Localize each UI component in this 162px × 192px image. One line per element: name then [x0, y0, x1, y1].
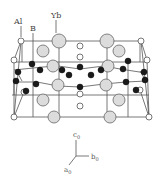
label-b: B	[30, 24, 36, 33]
al-atom	[18, 38, 24, 44]
yb-atom	[52, 79, 64, 91]
crystal-structure-diagram: Al B Yb c0b0a0	[0, 0, 162, 192]
b-atom	[120, 66, 126, 72]
yb-atom	[113, 94, 125, 106]
b-atom	[98, 67, 104, 73]
yb-atom	[47, 60, 59, 72]
b-atom	[66, 72, 72, 78]
b-atom	[37, 67, 43, 73]
al-atom	[77, 54, 83, 60]
axis-a-label: a0	[64, 166, 71, 175]
b-atom	[13, 78, 19, 84]
b-atom	[142, 77, 148, 83]
al-atom	[11, 57, 17, 63]
al-atom	[138, 38, 144, 44]
yb-atom	[48, 111, 60, 123]
yb-atom	[37, 45, 49, 57]
yb-atom	[104, 111, 116, 123]
label-yb: Yb	[50, 11, 61, 20]
b-atom	[133, 87, 139, 93]
al-atom	[11, 114, 17, 120]
al-atom	[77, 43, 83, 49]
b-atom	[141, 69, 147, 75]
yb-atom	[100, 34, 114, 48]
b-atom	[77, 84, 83, 90]
al-atom	[77, 91, 83, 97]
b-atom	[23, 88, 29, 94]
al-atom	[146, 114, 152, 120]
b-atom	[123, 79, 129, 85]
b-atom	[125, 58, 131, 64]
b-atom	[33, 81, 39, 87]
axis-b-label: b0	[91, 153, 99, 162]
label-al: Al	[13, 17, 23, 26]
b-atom	[15, 69, 21, 75]
b-atom	[88, 72, 94, 78]
yb-atom	[52, 34, 66, 48]
axis-triad: c0b0a0	[64, 131, 99, 175]
axis-c-label: c0	[73, 131, 80, 140]
b-atom	[77, 64, 83, 70]
al-atoms	[11, 38, 152, 120]
al-atom	[77, 103, 83, 109]
yb-atom	[37, 94, 49, 106]
yb-atom	[113, 45, 125, 57]
b-atom	[29, 61, 35, 67]
yb-atom	[100, 79, 112, 91]
b-atom	[59, 67, 65, 73]
al-atom	[144, 57, 150, 63]
axis-a-line	[69, 156, 76, 165]
